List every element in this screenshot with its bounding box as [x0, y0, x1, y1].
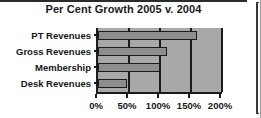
y-axis-label-gross-revenues: Gross Revenues [0, 47, 91, 57]
bar-membership [98, 63, 160, 72]
bar-pt-revenues [98, 31, 197, 40]
x-axis-tick-150% [188, 94, 190, 98]
x-axis: 0%50%100%150%200% [96, 94, 222, 116]
chart-title: Per Cent Growth 2005 v. 2004 [0, 3, 247, 15]
y-axis-label-membership: Membership [0, 63, 91, 73]
bar-desk-revenues [98, 79, 127, 88]
plot-area [96, 28, 222, 94]
y-axis-label-pt-revenues: PT Revenues [0, 31, 91, 41]
y-axis-category-labels: PT Revenues Gross Revenues Membership De… [0, 28, 93, 92]
bar-gross-revenues [98, 47, 167, 56]
x-axis-tick-50% [126, 94, 128, 98]
x-axis-tick-0% [95, 94, 97, 98]
top-edge-rule [0, 0, 247, 2]
object-frame-border [256, 2, 259, 114]
x-axis-tick-100% [157, 94, 159, 98]
x-axis-label-200%: 200% [200, 100, 240, 111]
frame-outer-edge [260, 0, 261, 118]
y-axis-label-desk-revenues: Desk Revenues [0, 79, 91, 89]
gridline-200% [221, 28, 223, 92]
chart-figure: Per Cent Growth 2005 v. 2004 PT Revenues… [0, 0, 261, 118]
x-axis-tick-200% [219, 94, 221, 98]
